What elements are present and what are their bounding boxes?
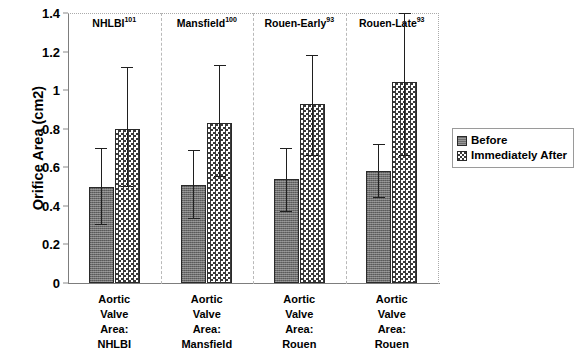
group-header: Rouen-Early93 [264, 16, 334, 29]
group-header-reference: 93 [417, 16, 425, 23]
x-axis-group-label: AorticValveArea:Rouen [282, 292, 316, 352]
error-bar-cap-bottom [280, 211, 292, 212]
error-bar-cap-bottom [121, 186, 133, 187]
x-axis-label-line: Area: [282, 322, 316, 337]
error-bar-cap-bottom [373, 197, 385, 198]
legend-label: Immediately After [471, 148, 567, 163]
error-bar [280, 148, 292, 212]
error-bar-stem [378, 144, 379, 198]
error-bar [188, 150, 200, 219]
group-header-reference: 93 [326, 16, 334, 23]
legend-swatch-before [457, 136, 467, 146]
group-separator [253, 13, 254, 284]
x-axis-label-line: Aortic [375, 292, 409, 307]
error-bar-cap-top [95, 148, 107, 149]
y-axis-tick-label: 0.2 [20, 237, 60, 252]
plot-frame-right [438, 13, 439, 284]
error-bar [121, 67, 133, 187]
x-axis-label-line: Mansfield [181, 337, 232, 352]
error-bar-cap-top [214, 65, 226, 66]
group-header-reference: 101 [124, 16, 136, 23]
error-bar [373, 144, 385, 198]
y-axis-tick-labels: 00.20.40.60.811.21.4 [16, 0, 60, 357]
error-bar-cap-bottom [399, 155, 411, 156]
group-header-name: Mansfield [177, 17, 225, 29]
x-axis-label-line: Rouen [282, 337, 316, 352]
x-axis-group-label: AorticValveArea:NHLBI [97, 292, 131, 352]
group-header: NHLBI101 [92, 16, 136, 29]
x-axis-label-line: Valve [282, 307, 316, 322]
x-axis-label-line: Area: [181, 322, 232, 337]
error-bar-cap-top [306, 55, 318, 56]
y-axis-tick-label: 0 [20, 276, 60, 291]
x-axis-label-line: Area: [375, 322, 409, 337]
error-bar-stem [312, 55, 313, 155]
x-axis-label-line: NHLBI [97, 337, 131, 352]
group-header-name: NHLBI [92, 17, 124, 29]
error-bar-cap-bottom [188, 218, 200, 219]
group-separator [161, 13, 162, 284]
legend-swatch-immediately-after [457, 151, 467, 161]
group-header-reference: 100 [225, 16, 237, 23]
y-axis-tick-label: 0.8 [20, 121, 60, 136]
error-bar [95, 148, 107, 225]
group-header: Mansfield100 [177, 16, 237, 29]
y-axis-tick-label: 1.2 [20, 44, 60, 59]
group-separator [346, 13, 347, 284]
y-axis-tick-label: 1 [20, 83, 60, 98]
error-bar-cap-bottom [214, 176, 226, 177]
y-axis-tick-label: 0.4 [20, 198, 60, 213]
x-axis-label-line: Valve [181, 307, 232, 322]
error-bar-cap-top [373, 144, 385, 145]
legend-item[interactable]: Before [457, 133, 567, 148]
error-bar [399, 13, 411, 156]
error-bar-cap-top [280, 148, 292, 149]
error-bar-stem [219, 65, 220, 177]
error-bar-stem [404, 13, 405, 156]
error-bar-stem [286, 148, 287, 212]
y-axis-tick-label: 0.6 [20, 160, 60, 175]
error-bar-stem [193, 150, 194, 219]
x-axis-label-line: Aortic [97, 292, 131, 307]
orifice-area-bar-chart: Orifice Area (cm2) 00.20.40.60.811.21.4 … [0, 0, 578, 357]
error-bar-cap-top [399, 13, 411, 14]
x-axis-group-label: AorticValveArea:Mansfield [181, 292, 232, 352]
x-axis-label-line: Aortic [181, 292, 232, 307]
x-axis-label-line: Valve [97, 307, 131, 322]
error-bar-stem [127, 67, 128, 187]
chart-legend: BeforeImmediately After [452, 128, 574, 168]
error-bar-stem [101, 148, 102, 225]
error-bar-cap-top [188, 150, 200, 151]
x-axis-label-line: Area: [97, 322, 131, 337]
x-axis-label-line: Aortic [282, 292, 316, 307]
y-axis-tick-label: 1.4 [20, 6, 60, 21]
error-bar-cap-bottom [95, 224, 107, 225]
x-axis-label-line: Valve [375, 307, 409, 322]
error-bar [306, 55, 318, 155]
group-header: Rouen-Late93 [359, 16, 425, 29]
error-bar-cap-top [121, 67, 133, 68]
x-axis-group-label: AorticValveArea:Rouen [375, 292, 409, 352]
x-axis-label-line: Rouen [375, 337, 409, 352]
error-bar-cap-bottom [306, 155, 318, 156]
legend-item[interactable]: Immediately After [457, 148, 567, 163]
legend-label: Before [471, 133, 507, 148]
group-header-name: Rouen-Early [264, 17, 326, 29]
error-bar [214, 65, 226, 177]
x-axis-line [68, 283, 440, 284]
